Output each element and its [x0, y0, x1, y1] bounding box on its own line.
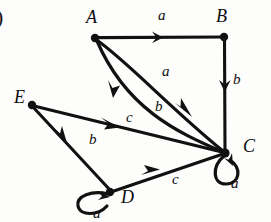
edge-D-E [33, 107, 110, 190]
vertex-dot-E [28, 101, 36, 109]
edge-label-C-C: a [231, 176, 239, 191]
edge-label-D-E: b [89, 132, 97, 147]
vertex-label-A: A [86, 8, 97, 26]
edge-label-C-A: b [155, 99, 163, 114]
vertex-label-D: D [121, 188, 134, 206]
edge-label-E-C: c [126, 110, 133, 125]
vertex-dot-B [220, 33, 228, 41]
edge-label-B-C: b [233, 72, 241, 87]
edge-label-D-C: c [172, 172, 179, 187]
edge-D-C-arrowhead [141, 165, 160, 175]
vertex-label-C: C [243, 137, 255, 155]
edge-B-C [225, 38, 226, 150]
directed-graph-figure: ) [0, 0, 271, 222]
edge-D-E-arrowhead [54, 126, 67, 143]
edge-label-A-C: a [162, 64, 170, 79]
edge-C-A-arrowhead [108, 80, 120, 98]
edge-label-D-D: a [93, 206, 101, 221]
edge-label-B-A: a [158, 8, 166, 23]
vertex-dot-D [106, 188, 114, 196]
vertex-dot-A [91, 34, 99, 42]
vertex-label-B: B [216, 7, 227, 25]
vertex-dot-C [220, 148, 229, 157]
vertex-label-E: E [14, 88, 25, 106]
edge-A-C-arrowhead [175, 98, 192, 117]
edge-A-C [96, 40, 223, 152]
